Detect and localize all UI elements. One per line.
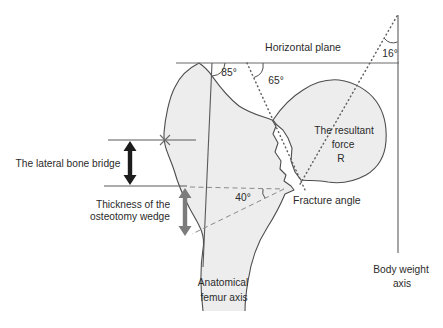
figure-canvas: Horizontal plane 85° 65° 16° The resulta… (0, 0, 443, 328)
lateral-bone-bridge-arrow-icon (124, 141, 137, 185)
body-weight-axis-label-line2: axis (393, 278, 411, 289)
fracture-angle-label: Fracture angle (293, 194, 361, 206)
femur-osteotomy-diagram: Horizontal plane 85° 65° 16° The resulta… (0, 0, 443, 328)
anatomical-axis-label-line2: femur axis (201, 292, 248, 303)
osteotomy-wedge-arrow-icon (179, 188, 192, 236)
body-weight-axis-label-line1: Body weight (373, 264, 429, 275)
angle-40-label: 40° (235, 192, 250, 203)
resultant-force-label-line3: R (337, 153, 344, 164)
angle-arc-16 (385, 39, 398, 43)
angle-16-label: 16° (382, 48, 397, 59)
anatomical-axis-label-line1: Anatomical (198, 277, 248, 288)
resultant-force-label-line1: The resultant (314, 125, 374, 136)
angle-65-label: 65° (268, 75, 283, 86)
angle-arc-65 (254, 63, 263, 78)
osteotomy-thickness-label-line1: Thickness of the (96, 199, 171, 210)
angle-85-label: 85° (221, 67, 236, 78)
femur-body-shape (164, 63, 294, 311)
lateral-bone-bridge-label: The lateral bone bridge (16, 158, 121, 169)
resultant-force-label-line2: force (332, 139, 355, 150)
horizontal-plane-label: Horizontal plane (265, 41, 341, 53)
osteotomy-thickness-label-line2: osteotomy wedge (90, 211, 170, 222)
